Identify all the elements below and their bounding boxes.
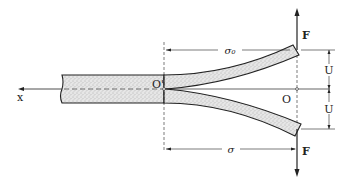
crack-tip-label: O' bbox=[152, 78, 164, 91]
svg-text:σ₀: σ₀ bbox=[225, 45, 236, 56]
displacement-top-label: U bbox=[324, 64, 333, 77]
svg-text:σ: σ bbox=[228, 144, 236, 155]
crack-length-bottom-dimension: σ bbox=[166, 144, 296, 155]
x-axis-label: x bbox=[17, 91, 24, 104]
svg-text:F: F bbox=[302, 29, 310, 42]
displacement-dimensions: U U bbox=[301, 50, 335, 129]
arrow-down-icon bbox=[295, 169, 300, 177]
x-axis: x bbox=[17, 87, 62, 104]
load-point-label: O bbox=[282, 93, 291, 106]
double-cantilever-beam-diagram: x O' O F F U U bbox=[0, 0, 347, 185]
beam-lower-arm bbox=[164, 89, 301, 136]
svg-text:F: F bbox=[302, 145, 310, 158]
force-top: F bbox=[295, 8, 311, 50]
load-point bbox=[296, 88, 299, 91]
arrow-up-icon bbox=[295, 8, 300, 16]
displacement-bottom-label: U bbox=[324, 103, 333, 116]
force-bottom: F bbox=[295, 129, 311, 177]
